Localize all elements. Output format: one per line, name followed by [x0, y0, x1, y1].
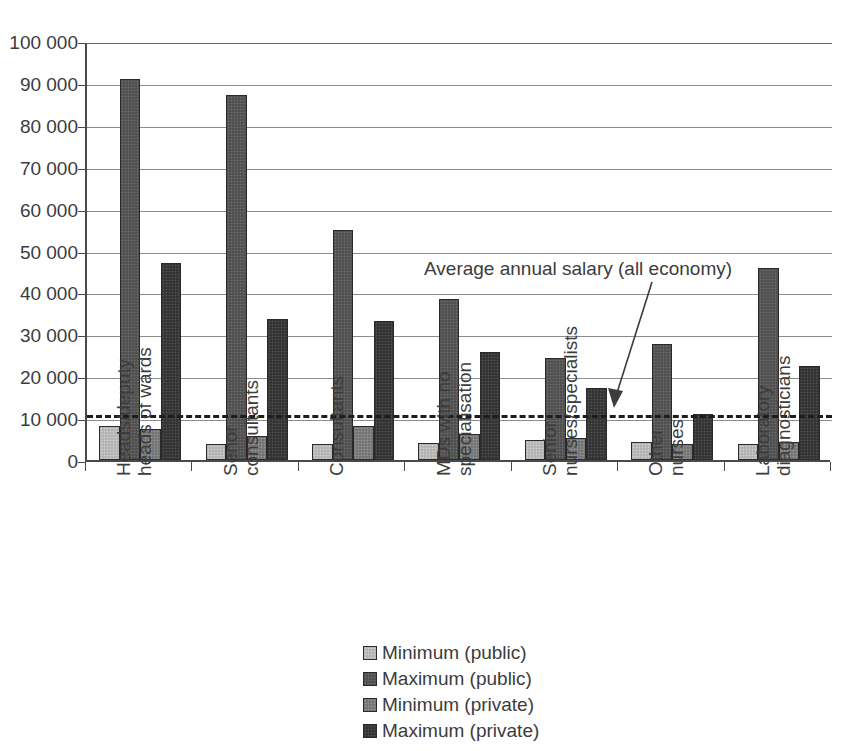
bar [693, 414, 714, 460]
x-axis-category-label-line: consultants [241, 380, 262, 476]
legend-swatch-icon [363, 724, 377, 738]
y-axis-tick-mark [78, 253, 85, 254]
y-axis-tick-mark [78, 43, 85, 44]
y-axis-tick-label: 0 [67, 451, 78, 473]
legend-item: Minimum (private) [363, 692, 539, 718]
legend-item: Maximum (public) [363, 666, 539, 692]
legend-item-label: Maximum (private) [382, 720, 539, 742]
y-axis-tick-mark [78, 127, 85, 128]
bar-chart-figure: 100 00090 00080 00070 00060 00050 00040 … [0, 0, 850, 751]
y-axis-tick-mark [78, 378, 85, 379]
legend-item-label: Maximum (public) [382, 668, 532, 690]
y-axis-tick-label: 80 000 [20, 116, 78, 138]
x-axis-category-label-line: Other [645, 428, 666, 476]
y-axis-tick-mark [78, 85, 85, 86]
y-axis-tick-mark [78, 211, 85, 212]
x-axis-tick-mark [191, 462, 192, 471]
y-axis-tick-label: 20 000 [20, 367, 78, 389]
y-axis-tick-label: 50 000 [20, 242, 78, 264]
legend-swatch-icon [363, 646, 377, 660]
x-axis-tick-mark [511, 462, 512, 471]
x-axis-category-label-line: Consultants [326, 376, 347, 476]
x-axis-tick-mark [617, 462, 618, 471]
x-axis-category-label-line: nurses [666, 419, 687, 476]
annotation-arrow-icon [600, 278, 660, 418]
y-axis-tick-label: 30 000 [20, 325, 78, 347]
y-axis-tick-label: 60 000 [20, 200, 78, 222]
x-axis-category-label-line: MDs with no [433, 371, 454, 476]
legend: Minimum (public)Maximum (public)Minimum … [363, 640, 539, 744]
legend-item: Minimum (public) [363, 640, 539, 666]
y-axis-tick-mark [78, 462, 85, 463]
y-axis-tick-label: 40 000 [20, 283, 78, 305]
y-axis-tick-label: 90 000 [20, 74, 78, 96]
x-axis-tick-mark [404, 462, 405, 471]
legend-swatch-icon [363, 672, 377, 686]
reference-line-annotation: Average annual salary (all economy) [424, 258, 732, 280]
x-axis-tick-mark [298, 462, 299, 471]
bar-group [300, 41, 406, 460]
bar [799, 366, 820, 460]
y-axis-tick-label: 100 000 [9, 32, 78, 54]
bar [374, 321, 395, 460]
x-axis-category-label-line: heads of wards [134, 347, 155, 476]
y-axis-tick-label: 10 000 [20, 409, 78, 431]
x-axis-category-label-line: nurses/specialists [560, 326, 581, 476]
x-axis-category-label-line: specialisation [454, 362, 475, 476]
legend-swatch-icon [363, 698, 377, 712]
x-axis-tick-mark [724, 462, 725, 471]
x-axis-category-label-line: Laboratory [752, 385, 773, 476]
legend-item: Maximum (private) [363, 718, 539, 744]
legend-item-label: Minimum (public) [382, 642, 527, 664]
y-axis-tick-mark [78, 420, 85, 421]
y-axis-tick-mark [78, 336, 85, 337]
bar [161, 263, 182, 460]
x-axis-category-label-line: Senior [539, 421, 560, 476]
y-axis-tick-mark [78, 294, 85, 295]
bar [480, 352, 501, 460]
x-axis-category-label-line: Senor [220, 425, 241, 476]
legend-item-label: Minimum (private) [382, 694, 534, 716]
bar [267, 319, 288, 460]
y-axis-tick-label: 70 000 [20, 158, 78, 180]
x-axis-category-label-line: diagnosticians [773, 356, 794, 476]
x-axis-tick-mark [830, 462, 831, 471]
x-axis-category-label-line: Heads/deputy [113, 359, 134, 476]
bar [353, 426, 374, 460]
x-axis-tick-mark [85, 462, 86, 471]
y-axis-tick-mark [78, 169, 85, 170]
